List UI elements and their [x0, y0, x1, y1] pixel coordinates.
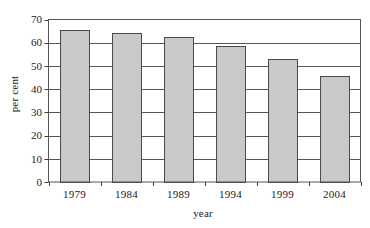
- bar: [165, 38, 194, 183]
- bar: [113, 34, 142, 183]
- bar: [61, 31, 90, 183]
- bar: [321, 77, 350, 183]
- x-axis-ticks: [50, 182, 362, 186]
- bar: [217, 47, 246, 183]
- bar: [269, 60, 298, 183]
- bar-chart: per cent 0 10 20 30 40 50 60 70 1979 198…: [0, 0, 370, 228]
- x-tick-label: 1989: [167, 188, 190, 200]
- x-axis-tick-labels: 1979 1984 1989 1994 1999 2004: [0, 188, 370, 204]
- x-tick-label: 1999: [271, 188, 294, 200]
- x-axis-title: year: [44, 207, 362, 219]
- x-tick-label: 2004: [323, 188, 346, 200]
- y-axis-ticks: [45, 21, 49, 183]
- x-tick-label: 1984: [115, 188, 138, 200]
- x-tick-label: 1979: [63, 188, 86, 200]
- x-tick-label: 1994: [219, 188, 242, 200]
- gridlines: [49, 44, 361, 160]
